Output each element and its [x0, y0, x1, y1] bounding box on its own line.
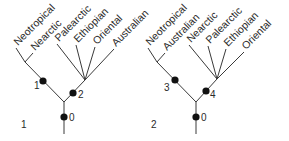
nearctic-branch	[25, 53, 33, 62]
australian-branch	[157, 53, 165, 62]
cladogram-figure: 0 1 2 1 Neotropical Nearctic Palearctic …	[0, 0, 289, 141]
node-dot-4	[202, 87, 209, 94]
node-label-1: 1	[34, 80, 40, 91]
neotropical-branch	[148, 48, 157, 62]
panel-label: 1	[21, 119, 27, 130]
node-label-0: 0	[201, 112, 207, 123]
node-dot-0	[60, 113, 67, 120]
node-label-4: 4	[210, 89, 216, 100]
neotropical-branch	[16, 48, 25, 62]
node-label-0: 0	[69, 112, 75, 123]
node-label-3: 3	[164, 82, 170, 93]
node-label-2: 2	[78, 89, 84, 100]
node-dot-0	[192, 113, 199, 120]
node-dot-1	[39, 77, 46, 84]
node-dot-2	[69, 89, 76, 96]
tree-panel-2: 0 3 4 2 Neotropical Australian Nearctic …	[143, 1, 273, 134]
tree-panel-1: 0 1 2 1 Neotropical Nearctic Palearctic …	[11, 1, 151, 134]
node-dot-3	[171, 76, 178, 83]
panel-label: 2	[151, 119, 157, 130]
